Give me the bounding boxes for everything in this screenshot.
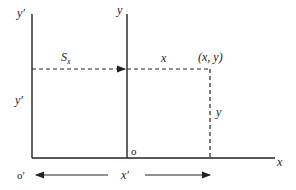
label-y-prime-top: y′ bbox=[16, 6, 25, 20]
label-origin-prime: o′ bbox=[17, 169, 25, 181]
label-shift: Sx bbox=[61, 50, 71, 66]
label-y-side: y bbox=[215, 105, 222, 119]
label-x-axis: x bbox=[276, 155, 283, 169]
label-y-top: y bbox=[116, 3, 123, 17]
label-point: (x, y) bbox=[198, 50, 223, 64]
label-x-segment: x bbox=[160, 51, 167, 65]
label-x-prime: x′ bbox=[120, 168, 129, 182]
label-y-prime-side: y′ bbox=[14, 93, 23, 107]
coordinate-translation-diagram: y′ y Sx x (x, y) y′ y o x o′ x′ bbox=[0, 0, 296, 190]
label-origin: o bbox=[131, 145, 137, 157]
